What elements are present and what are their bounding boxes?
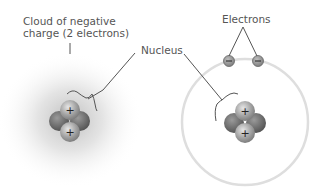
electrons-label: Electrons [222, 13, 271, 25]
cloud-label-line2: charge (2 electrons) [23, 27, 129, 39]
electron-orbit [182, 59, 308, 185]
svg-text:+: + [240, 127, 249, 140]
svg-text:+: + [240, 105, 249, 118]
nucleus-label: Nucleus [141, 44, 183, 56]
right-nucleus: + + [224, 101, 266, 143]
cloud-label-line1: Cloud of negative [23, 15, 116, 27]
electrons [224, 56, 264, 67]
svg-text:+: + [65, 126, 74, 139]
electrons-pointer-lines [229, 27, 257, 56]
svg-text:+: + [65, 104, 74, 117]
